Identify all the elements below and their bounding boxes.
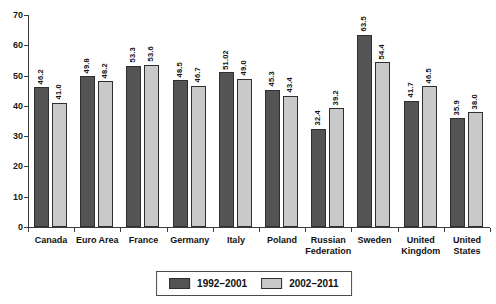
bar-value-label: 43.4 [285,77,296,92]
bar-1992-2001-italy [219,72,234,227]
bar-value-label: 45.3 [267,71,278,86]
bar-value-label: 41.0 [54,84,65,99]
bar-value-label: 51.02 [221,50,232,70]
bar-value-label: 35.9 [452,100,463,115]
x-category-label-sweden: Sweden [349,235,399,246]
y-tick-label: 30 [1,131,23,141]
legend-item-1992-2001: 1992–2001 [169,278,247,289]
x-tick-mark [120,228,121,232]
bar-value-label: 53.3 [128,47,139,62]
x-category-label-russian-federation: Russian Federation [303,235,353,257]
x-tick-mark [351,228,352,232]
y-tick-label: 0 [1,222,23,232]
legend-swatch-light [261,278,282,289]
legend-label-2002-2011: 2002–2011 [289,278,339,289]
bar-value-label: 46.5 [424,68,435,83]
bar-value-label: 46.7 [193,67,204,82]
x-category-label-italy: Italy [211,235,261,246]
y-tick-mark [24,197,28,198]
bar-1992-2001-sweden [357,35,372,227]
x-tick-mark [259,228,260,232]
bar-value-label: 53.6 [146,46,157,61]
x-category-label-germany: Germany [165,235,215,246]
bar-value-label: 39.2 [331,90,342,105]
y-tick-mark [24,136,28,137]
bar-2002-2011-canada [52,103,67,227]
bar-value-label: 63.5 [359,16,370,31]
legend-label-1992-2001: 1992–2001 [197,278,247,289]
x-tick-mark [167,228,168,232]
legend-swatch-dark [169,278,190,289]
legend-item-2002-2011: 2002–2011 [261,278,339,289]
y-tick-mark [24,106,28,107]
bar-2002-2011-russian-federation [329,108,344,227]
bar-value-label: 48.2 [100,63,111,78]
x-tick-mark [305,228,306,232]
y-tick-label: 40 [1,101,23,111]
bar-value-label: 48.5 [175,62,186,77]
bar-1992-2001-united-kingdom [404,101,419,227]
x-tick-mark [398,228,399,232]
y-tick-mark [24,15,28,16]
bar-value-label: 41.7 [406,82,417,97]
bar-1992-2001-germany [173,80,188,227]
x-category-label-poland: Poland [257,235,307,246]
bar-2002-2011-germany [191,86,206,227]
x-tick-mark [444,228,445,232]
bar-1992-2001-canada [34,87,49,227]
y-tick-label: 60 [1,40,23,50]
bar-2002-2011-euro-area [98,81,113,227]
y-axis-line [28,15,29,228]
bar-value-label: 46.2 [36,69,47,84]
x-category-label-united-states: United States [442,235,492,257]
bar-chart-figure: 010203040506070 46.241.049.848.253.353.6… [0,0,496,304]
bar-2002-2011-sweden [375,62,390,227]
x-category-label-france: France [118,235,168,246]
x-category-label-united-kingdom: United Kingdom [396,235,446,257]
legend-box: 1992–2001 2002–2011 [156,271,352,296]
x-tick-mark [74,228,75,232]
bar-2002-2011-united-states [468,112,483,227]
bar-value-label: 49.0 [239,60,250,75]
x-category-label-canada: Canada [26,235,76,246]
x-tick-mark [490,228,491,232]
bar-1992-2001-united-states [450,118,465,227]
y-tick-label: 70 [1,10,23,20]
bar-1992-2001-russian-federation [311,129,326,227]
bar-1992-2001-euro-area [80,76,95,227]
y-tick-label: 20 [1,161,23,171]
bar-value-label: 49.8 [82,58,93,73]
y-tick-label: 50 [1,71,23,81]
bar-2002-2011-united-kingdom [422,86,437,227]
bar-1992-2001-poland [265,90,280,227]
bar-2002-2011-poland [283,96,298,227]
bar-value-label: 32.4 [313,110,324,125]
y-tick-mark [24,45,28,46]
y-tick-mark [24,76,28,77]
y-tick-mark [24,166,28,167]
bar-2002-2011-italy [237,79,252,227]
bar-value-label: 54.4 [377,44,388,59]
bar-2002-2011-france [144,65,159,227]
x-category-label-euro-area: Euro Area [72,235,122,246]
bar-1992-2001-france [126,66,141,227]
bar-value-label: 38.0 [470,94,481,109]
y-tick-label: 10 [1,192,23,202]
x-tick-mark [28,228,29,232]
x-tick-mark [213,228,214,232]
